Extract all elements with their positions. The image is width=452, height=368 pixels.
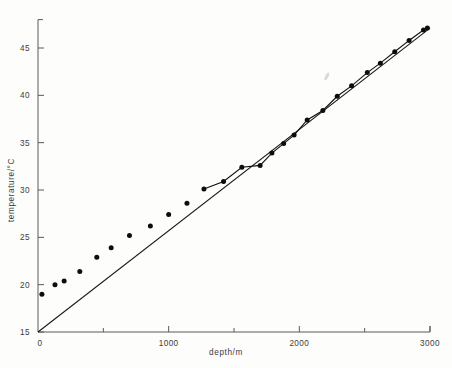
- data-point: [320, 108, 325, 113]
- data-point: [62, 278, 67, 283]
- y-axis-title: temperature/°C: [7, 158, 16, 222]
- data-point: [109, 245, 114, 250]
- y-tick-label: 25: [20, 233, 30, 242]
- axes-group: [38, 20, 430, 332]
- y-tick-label: 35: [20, 139, 30, 148]
- ticks-group: [38, 48, 430, 332]
- figure-canvas: 152025303540451000200030000 depth/m temp…: [0, 0, 452, 368]
- plot-svg: 152025303540451000200030000 depth/m temp…: [0, 0, 452, 368]
- data-point: [77, 269, 82, 274]
- straight-reference-line: [38, 28, 430, 332]
- data-point: [425, 26, 430, 31]
- y-tick-label: 40: [20, 91, 30, 100]
- data-point: [392, 49, 397, 54]
- x-axis-title: depth/m: [209, 348, 243, 357]
- scan-smudge-artifact: [323, 72, 330, 81]
- data-point: [148, 223, 153, 228]
- data-point: [184, 201, 189, 206]
- data-point: [52, 282, 57, 287]
- data-point: [365, 70, 370, 75]
- y-tick-label: 45: [20, 44, 30, 53]
- data-point: [305, 117, 310, 122]
- x-tick-label: 3000: [420, 339, 440, 348]
- x-tick-label: 1000: [159, 339, 179, 348]
- data-point: [239, 165, 244, 170]
- y-tick-label: 20: [20, 281, 30, 290]
- data-point: [378, 61, 383, 66]
- data-point: [269, 151, 274, 156]
- origin-label: 0: [38, 339, 43, 348]
- tick-labels-group: 152025303540451000200030000: [20, 44, 440, 348]
- data-point: [166, 212, 171, 217]
- data-point: [292, 133, 297, 138]
- data-point: [349, 83, 354, 88]
- x-tick-label: 2000: [289, 339, 309, 348]
- data-point: [94, 255, 99, 260]
- y-tick-label: 15: [20, 328, 30, 337]
- data-point: [407, 38, 412, 43]
- data-point: [39, 292, 44, 297]
- data-point: [127, 233, 132, 238]
- data-point: [258, 163, 263, 168]
- scan-smudge: [323, 72, 330, 81]
- data-points-group: [39, 26, 429, 297]
- data-point: [335, 94, 340, 99]
- axis-spines: [38, 20, 430, 332]
- data-point: [281, 141, 286, 146]
- data-point: [221, 179, 226, 184]
- y-tick-label: 30: [20, 186, 30, 195]
- data-point: [201, 187, 206, 192]
- reference-line: [38, 28, 430, 332]
